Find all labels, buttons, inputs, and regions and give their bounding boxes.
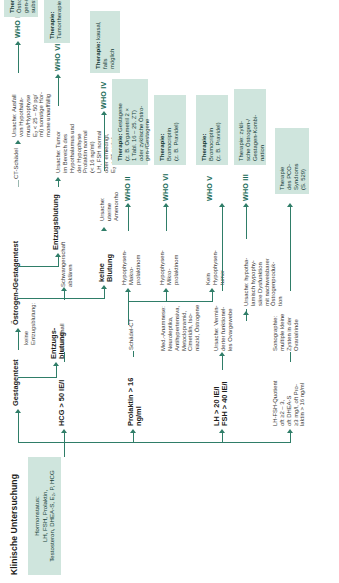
- cause-ovargewebe: Ursache: Vermin- derter funktionel- les …: [213, 293, 234, 351]
- connector: [64, 352, 65, 362]
- connector: [56, 366, 57, 378]
- arrow-icon: [55, 177, 61, 181]
- connector: [58, 181, 59, 187]
- connector: [58, 257, 59, 267]
- connector: [64, 291, 65, 300]
- connector: [290, 207, 291, 291]
- connector: [133, 351, 134, 357]
- arrow-icon: [101, 285, 107, 289]
- therapy-box-who4: Therapie: kausal, falls möglich: [90, 11, 120, 73]
- therapy-who5-text: Bromocriptin (z. B. Pravidel): [208, 122, 221, 161]
- result-hypophysen-mikroprolaktinom: Hypophysen- Mikro- prolaktinom: [159, 231, 180, 285]
- who-label-6: WHO VI: [161, 167, 170, 201]
- arrow-icon: [15, 41, 21, 45]
- cause-ausfall: Ursache: Ausfall von Hypothala- mus/Hypo…: [11, 75, 52, 137]
- connector: [18, 442, 290, 443]
- stage-gestagentest: Gestagentest: [12, 350, 20, 406]
- therapy-who1-heading: Therapie:: [8, 0, 15, 13]
- therapy-who6-heading: Therapie:: [158, 134, 165, 161]
- therapy-box-who1: Therapie: zyklische Östro- gen-/Gestagen…: [4, 0, 38, 17]
- connector: [58, 78, 59, 106]
- arrow-icon: [53, 362, 59, 366]
- arrow-icon: [61, 429, 67, 433]
- stage-oestrogen-gestagentest: Östrogen-/Gestagentest: [12, 231, 20, 325]
- edge-keine-entzugsblutung: keine Entzugsblutung:: [23, 285, 37, 345]
- hormone-status-box: Hormonstatus: LH, FSH, Prolaktin, Testos…: [28, 457, 61, 575]
- therapy-box-who5: Therapie: Bromocriptin (z. B. Pravidel): [196, 95, 228, 165]
- connector: [104, 289, 105, 299]
- connector: [18, 377, 56, 378]
- therapy-box-who6: Therapie: Bromocriptin (z. B. Pravidel): [154, 95, 186, 165]
- connector: [64, 443, 65, 457]
- edge-keine-blutung: keine Blutung: [98, 234, 115, 282]
- connector: [18, 180, 19, 187]
- cause-tumor: Ursache: Tumor im Bereich des Hypothalam…: [55, 109, 117, 173]
- arrow-icon: [219, 203, 225, 207]
- stage-hcg: HCG > 50 IE/l: [58, 364, 66, 426]
- connector: [222, 207, 223, 291]
- arrow-icon: [219, 429, 225, 433]
- arrow-icon: [243, 203, 249, 207]
- therapy-who6-text: Bromocriptin (z. B. Pravidel): [166, 122, 179, 161]
- result-hypophysen-makroprolaktinom: Hypophysen- Makro- prolaktinom: [121, 231, 142, 285]
- who-label-5: WHO V: [205, 167, 214, 201]
- connector: [18, 45, 19, 73]
- arrow-icon: [101, 111, 107, 115]
- therapy-box-pco: Therapie des PCO- Syndroms (S. 529): [275, 128, 309, 194]
- cause-hypothalamisch: Ursache: hypotha- lamisch hypophy- säre …: [243, 242, 284, 306]
- arrow-icon: [130, 429, 136, 433]
- connector: [104, 115, 105, 171]
- arrow-icon: [243, 311, 249, 315]
- therapy-who3-text: Therapie: zykli- sche Östrogen-/ Gestage…: [238, 115, 265, 161]
- connector: [166, 292, 167, 302]
- therapy-who7-text: Tumortherapie: [56, 1, 62, 39]
- therapy-who4-heading: Therapie:: [94, 42, 101, 69]
- cause-uterine: Ursache: uterine Amenorrho: [99, 173, 120, 221]
- who-label-3: WHO III: [241, 167, 250, 201]
- connector: [290, 352, 291, 362]
- arrow-icon: [287, 429, 293, 433]
- arrow-icon: [219, 352, 225, 356]
- therapy-box-who7: Therapie: Tumortherapie: [44, 0, 70, 43]
- flowchart-frame: Klinische Untersuchung Hormonstatus: LH,…: [0, 0, 339, 583]
- who-label-2: WHO II: [123, 167, 132, 201]
- arrow-icon: [287, 203, 293, 207]
- arrow-icon: [125, 288, 131, 292]
- arrow-icon: [209, 288, 215, 292]
- connector: [64, 433, 65, 443]
- flowchart-stage: Klinische Untersuchung Hormonstatus: LH,…: [0, 0, 339, 583]
- therapy-who2-heading: Therapie:: [116, 134, 123, 161]
- arrow-icon: [15, 328, 21, 332]
- test-ct-schaedel: CT-Schädel: [13, 139, 20, 179]
- connector: [128, 301, 129, 325]
- arrow-icon: [125, 203, 131, 207]
- connector: [18, 298, 104, 299]
- arrow-icon: [61, 287, 67, 291]
- connector: [166, 207, 167, 231]
- stage-prolaktin: Prolaktin > 16 ng/ml: [127, 358, 144, 426]
- arrow-icon: [163, 288, 169, 292]
- test-schaedel-ct: Schädel-CT: [128, 306, 135, 350]
- arrow-icon: [55, 74, 61, 78]
- therapy-box-who3: Therapie: zykli- sche Östrogen-/ Gestage…: [234, 89, 266, 165]
- therapy-who7-heading: Therapie:: [48, 12, 55, 39]
- connector: [128, 301, 212, 302]
- therapy-box-who2: Therapie: Gestagene (z. B. Orgametril 2 …: [112, 79, 148, 165]
- arrow-icon: [15, 140, 21, 144]
- connector: [222, 433, 223, 443]
- therapy-who5-heading: Therapie:: [200, 134, 207, 161]
- arrow-icon: [101, 227, 107, 231]
- test-schwangerschaft: Schwangerschaft abklären: [60, 225, 74, 287]
- arrow-icon: [163, 203, 169, 207]
- connector: [18, 413, 19, 443]
- connector: [18, 266, 58, 267]
- connector: [18, 332, 19, 350]
- who-label-4: WHO IV: [99, 75, 108, 109]
- test-ultraschall: Ultraschall: [59, 307, 66, 351]
- connector: [128, 292, 129, 302]
- stage-lh-fsh: LH > 20 IE/l FSH > 40 IE/l: [213, 374, 230, 426]
- page-title: Klinische Untersuchung: [10, 455, 20, 575]
- connector: [133, 433, 134, 443]
- connector: [128, 207, 129, 231]
- connector: [222, 356, 223, 370]
